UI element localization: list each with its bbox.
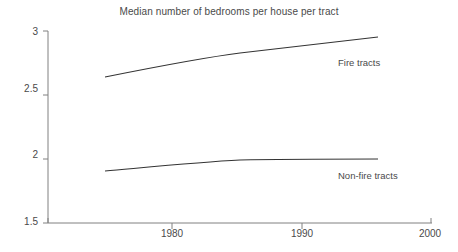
chart-container: Median number of bedrooms per house per … <box>0 0 458 252</box>
y-axis-tick-label: 3 <box>4 26 38 37</box>
series-label-non-fire-tracts: Non-fire tracts <box>338 170 398 181</box>
y-axis-tick-label: 2.5 <box>4 83 38 94</box>
x-axis-tick-label: 2000 <box>400 228 458 239</box>
x-axis-tick-label: 1990 <box>272 228 332 239</box>
series-label-fire-tracts: Fire tracts <box>338 57 380 68</box>
x-axis-tick-label: 1980 <box>142 228 202 239</box>
plot-area <box>0 0 458 252</box>
y-axis-tick-label: 1.5 <box>4 216 38 227</box>
y-axis-tick-label: 2 <box>4 149 38 160</box>
